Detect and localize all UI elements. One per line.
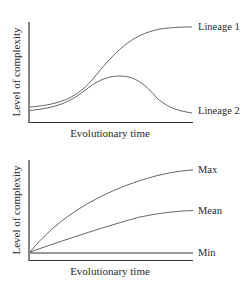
min-label: Min xyxy=(198,247,216,258)
bottom-chart: Max Mean Min Evolutionary time Level of … xyxy=(10,160,223,277)
max-curve xyxy=(30,170,193,252)
lineage-2-curve xyxy=(30,76,192,113)
mean-label: Mean xyxy=(198,205,223,216)
complexity-diagrams: Lineage 1 Lineage 2 Evolutionary time Le… xyxy=(0,0,247,292)
lineage-2-label: Lineage 2 xyxy=(198,105,240,116)
lineage-1-curve xyxy=(30,27,192,107)
max-label: Max xyxy=(198,164,218,175)
top-y-axis-label: Level of complexity xyxy=(10,27,22,117)
top-x-axis-label: Evolutionary time xyxy=(70,127,150,139)
lineage-1-label: Lineage 1 xyxy=(198,21,240,32)
bottom-x-axis-label: Evolutionary time xyxy=(70,265,150,277)
top-chart: Lineage 1 Lineage 2 Evolutionary time Le… xyxy=(10,21,240,139)
bottom-y-axis-label: Level of complexity xyxy=(10,165,22,255)
mean-curve xyxy=(30,211,193,253)
